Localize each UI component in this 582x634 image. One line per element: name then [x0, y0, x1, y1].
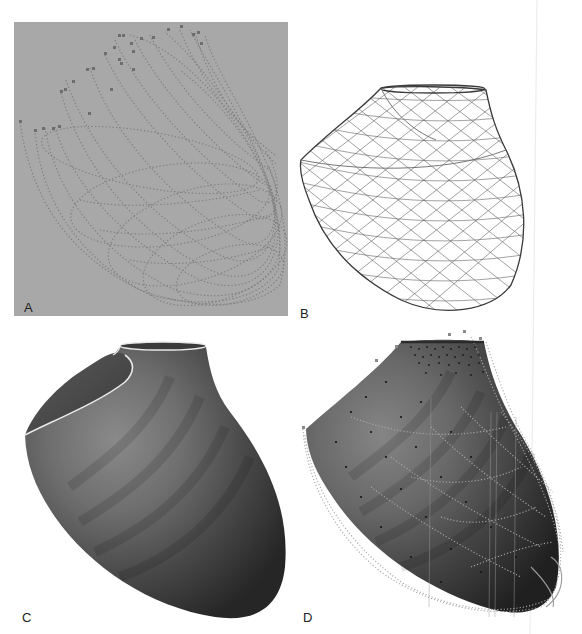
panel-a: A [0, 0, 291, 317]
panel-label-c: C [22, 611, 31, 624]
panel-c: C [0, 317, 291, 634]
panel-label-a: A [24, 301, 33, 314]
fiber-trajectories-plot [0, 0, 291, 317]
shaded-surface-model [0, 317, 291, 634]
surface-with-data-overlay [291, 317, 582, 634]
panel-label-d: D [303, 611, 312, 624]
panel-d: D [291, 317, 582, 634]
wireframe-mesh [291, 0, 582, 317]
panel-b: B [291, 0, 582, 317]
